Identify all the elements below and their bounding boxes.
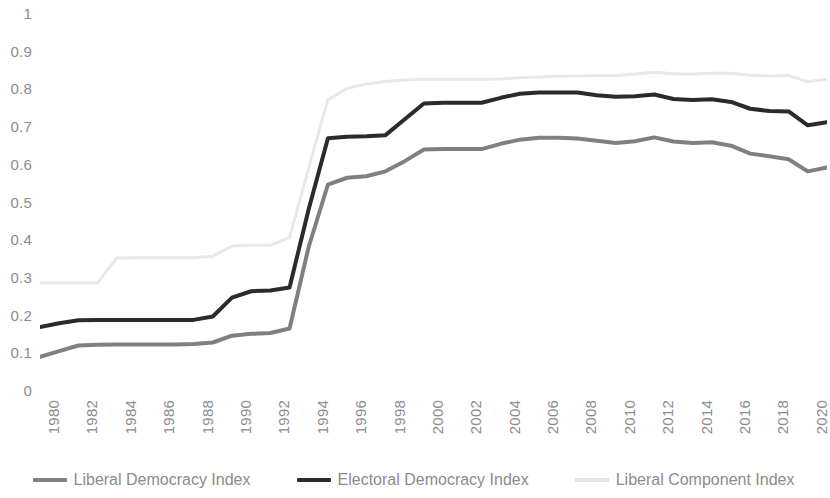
legend-item[interactable]: Electoral Democracy Index — [297, 471, 529, 489]
y-axis-tick: 0.5 — [11, 194, 32, 209]
x-axis-tick: 2014 — [699, 400, 714, 434]
plot-lines — [40, 13, 827, 390]
x-axis-tick: 2006 — [545, 400, 560, 434]
series-line — [40, 137, 827, 356]
y-axis: 10.90.80.70.60.50.40.30.20.10 — [0, 0, 40, 400]
x-axis-tick: 2018 — [775, 400, 790, 434]
x-axis-tick: 1992 — [276, 400, 291, 434]
x-axis-tick: 2000 — [430, 400, 445, 434]
x-axis-tick: 1990 — [238, 400, 253, 434]
x-axis-tick: 2004 — [507, 400, 522, 434]
legend-item-label: Liberal Component Index — [616, 471, 795, 489]
series-line — [40, 93, 827, 327]
x-axis-tick: 1984 — [123, 400, 138, 434]
x-axis-tick: 1982 — [84, 400, 99, 434]
plot-area — [40, 13, 827, 390]
x-axis-tick: 2016 — [737, 400, 752, 434]
x-axis: 1980198219841986198819901992199419961998… — [40, 392, 827, 458]
y-axis-tick: 1 — [23, 6, 32, 21]
y-axis-tick: 0.1 — [11, 345, 32, 360]
x-axis-tick: 2002 — [468, 400, 483, 434]
legend-line-swatch-icon — [33, 478, 67, 482]
x-axis-tick: 1986 — [161, 400, 176, 434]
y-axis-tick: 0.3 — [11, 269, 32, 284]
y-axis-tick: 0.6 — [11, 156, 32, 171]
x-axis-tick: 1998 — [392, 400, 407, 434]
y-axis-tick: 0.2 — [11, 307, 32, 322]
x-axis-tick: 1994 — [315, 400, 330, 434]
y-axis-tick: 0 — [23, 383, 32, 398]
y-axis-tick: 0.7 — [11, 119, 32, 134]
legend-line-swatch-icon — [575, 478, 609, 482]
x-axis-tick: 1988 — [200, 400, 215, 434]
x-axis-tick: 2020 — [814, 400, 829, 434]
y-axis-tick: 0.9 — [11, 43, 32, 58]
x-axis-tick: 1980 — [46, 400, 61, 434]
legend-item-label: Electoral Democracy Index — [338, 471, 529, 489]
x-axis-tick: 2010 — [622, 400, 637, 434]
legend-item[interactable]: Liberal Democracy Index — [33, 471, 251, 489]
chart-legend: Liberal Democracy IndexElectoral Democra… — [0, 462, 827, 498]
x-axis-tick: 2008 — [583, 400, 598, 434]
legend-item[interactable]: Liberal Component Index — [575, 471, 795, 489]
x-axis-tick: 2012 — [660, 400, 675, 434]
y-axis-tick: 0.4 — [11, 232, 32, 247]
y-axis-tick: 0.8 — [11, 81, 32, 96]
legend-item-label: Liberal Democracy Index — [74, 471, 251, 489]
x-axis-tick: 1996 — [353, 400, 368, 434]
legend-line-swatch-icon — [297, 478, 331, 482]
